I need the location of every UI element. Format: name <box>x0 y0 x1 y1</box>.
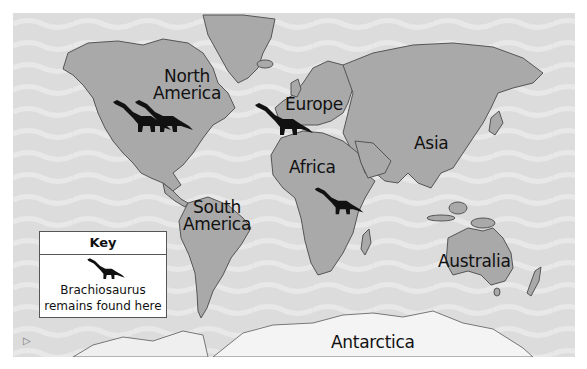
label-africa: Africa <box>289 159 336 176</box>
key-description-line2: remains found here <box>40 298 166 314</box>
label-asia: Asia <box>414 135 448 152</box>
brachiosaurus-marker-north-america-east <box>133 98 195 132</box>
label-antarctica: Antarctica <box>331 334 415 351</box>
map-key: Key Brachiosaurus remains found here <box>39 231 167 318</box>
key-description: Brachiosaurus remains found here <box>40 282 166 314</box>
brachiosaurus-marker-africa <box>313 185 365 215</box>
label-north-america: North America <box>153 68 221 102</box>
brachiosaurus-icon <box>86 257 126 279</box>
brachiosaurus-marker-europe <box>253 101 315 135</box>
key-description-line1: Brachiosaurus <box>40 282 166 298</box>
label-australia: Australia <box>438 253 511 270</box>
label-south-america: South America <box>183 199 251 233</box>
key-title: Key <box>40 232 166 255</box>
triangle-mark-icon: ▷ <box>23 335 31 346</box>
